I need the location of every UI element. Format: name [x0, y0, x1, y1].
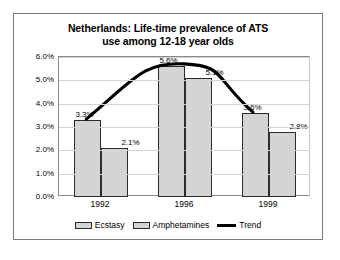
- gridline: [59, 104, 309, 105]
- y-axis-tick-label: 5.0%: [18, 75, 54, 84]
- chart-title-line-2: use among 12-18 year olds: [24, 35, 312, 48]
- chart-legend: Ecstasy Amphetamines Trend: [14, 220, 322, 230]
- legend-swatch-ecstasy: [75, 222, 92, 229]
- gridline: [59, 57, 309, 58]
- legend-label-trend: Trend: [239, 220, 261, 230]
- x-axis-tick-label-1996: 1996: [175, 199, 194, 209]
- chart-frame: Netherlands: Life-time prevalence of ATS…: [13, 13, 323, 240]
- x-axis-tick-label-1992: 1992: [91, 199, 110, 209]
- gridline: [59, 127, 309, 128]
- chart-title: Netherlands: Life-time prevalence of ATS…: [24, 22, 312, 48]
- y-axis-tick-label: 4.0%: [18, 98, 54, 107]
- legend-item-ecstasy[interactable]: Ecstasy: [75, 220, 125, 230]
- legend-line-trend: [217, 224, 236, 227]
- legend-swatch-amphetamines: [133, 222, 150, 229]
- plot-wrapper: 0.0%1.0%2.0%3.0%4.0%5.0%6.0% 3.3%2.1%5.6…: [14, 56, 322, 206]
- y-axis: 0.0%1.0%2.0%3.0%4.0%5.0%6.0%: [18, 56, 54, 196]
- x-axis: 199219961999: [58, 199, 310, 215]
- gridline: [59, 150, 309, 151]
- y-axis-tick-label: 3.0%: [18, 122, 54, 131]
- gridline: [59, 80, 309, 81]
- y-axis-tick-label: 6.0%: [18, 52, 54, 61]
- bar-label-amphetamines-1992: 2.1%: [121, 138, 139, 147]
- bar-label-ecstasy-1992: 3.3%: [75, 110, 93, 119]
- chart-page: Netherlands: Life-time prevalence of ATS…: [0, 0, 340, 260]
- y-axis-tick-label: 0.0%: [18, 192, 54, 201]
- legend-label-amphetamines: Amphetamines: [153, 220, 210, 230]
- chart-title-line-1: Netherlands: Life-time prevalence of ATS: [24, 22, 312, 35]
- gridline: [59, 174, 309, 175]
- legend-item-amphetamines[interactable]: Amphetamines: [133, 220, 210, 230]
- y-axis-tick-label: 1.0%: [18, 168, 54, 177]
- plot-area: 3.3%2.1%5.6%5.1%3.6%2.8%: [58, 56, 310, 196]
- legend-item-trend[interactable]: Trend: [217, 220, 261, 230]
- bar-label-amphetamines-1996: 5.1%: [205, 68, 223, 77]
- legend-label-ecstasy: Ecstasy: [95, 220, 125, 230]
- y-axis-tick-label: 2.0%: [18, 145, 54, 154]
- x-axis-tick-label-1999: 1999: [259, 199, 278, 209]
